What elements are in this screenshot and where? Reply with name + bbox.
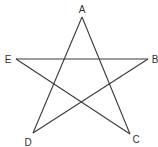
vertex-labels: A B C D E	[5, 4, 158, 147]
pentagram-diagram: A B C D E	[0, 0, 158, 147]
edge-d-b	[33, 59, 148, 133]
vertex-label-c: C	[132, 134, 139, 145]
vertex-label-e: E	[5, 54, 12, 65]
vertex-label-b: B	[152, 54, 158, 65]
vertex-label-a: A	[79, 4, 86, 15]
edge-e-c	[16, 59, 130, 134]
edges	[16, 17, 148, 134]
vertex-label-d: D	[24, 137, 31, 147]
